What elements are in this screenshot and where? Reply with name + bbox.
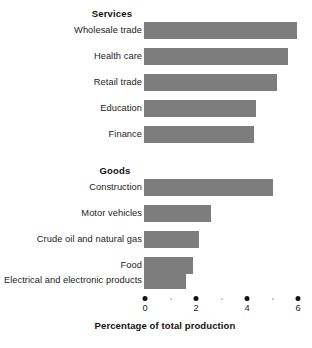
bar-label: Wholesale trade [74,22,142,39]
x-tick-dot-minor [170,298,172,300]
bar-row: Education [0,100,312,117]
bar-row: Health care [0,48,312,65]
bar-label: Construction [89,179,142,196]
bar-row: Motor vehicles [0,205,312,222]
x-tick-dot-minor [272,298,274,300]
bar-label: Finance [109,126,142,143]
x-axis-title: Percentage of total production [95,320,236,331]
x-tick-dot [245,296,250,301]
bar-row: Electrical and electronic products [0,272,312,289]
bar-row: Construction [0,179,312,196]
bar-label: Crude oil and natural gas [37,231,142,248]
x-tick-label: 6 [295,303,300,313]
bar-fill [144,272,186,289]
bar-label: Retail trade [94,74,142,91]
bar-track [144,179,273,196]
x-tick-dot [143,296,148,301]
bar-track [144,272,186,289]
bar-label: Motor vehicles [81,205,142,222]
bar-fill [144,231,199,248]
bar-fill [144,126,254,143]
group-header-goods: Goods [86,165,144,176]
x-tick-label: 4 [244,303,249,313]
x-tick-label: 0 [142,303,147,313]
bar-chart: Services Wholesale trade Health care Ret… [0,0,312,348]
bar-track [144,100,256,117]
bar-row: Retail trade [0,74,312,91]
bar-fill [144,74,277,91]
bar-fill [144,179,273,196]
bar-label: Health care [94,48,142,65]
bar-fill [144,48,288,65]
bar-row: Finance [0,126,312,143]
bar-label: Education [100,100,142,117]
bar-track [144,74,277,91]
x-tick-dot [296,296,301,301]
x-axis: 0 2 4 6 Percentage of total production [0,294,312,348]
bar-label: Electrical and electronic products [4,272,142,289]
bar-track [144,126,254,143]
bar-row: Crude oil and natural gas [0,231,312,248]
bar-track [144,48,288,65]
x-tick-label: 2 [193,303,198,313]
bar-row: Wholesale trade [0,22,312,39]
bar-fill [144,205,211,222]
x-tick-dot [194,296,199,301]
bar-fill [144,22,297,39]
group-header-services: Services [80,8,144,19]
x-tick-dot-minor [221,298,223,300]
bar-track [144,205,211,222]
bar-track [144,231,199,248]
x-axis-title-wrap: Percentage of total production [0,320,312,331]
bar-track [144,22,297,39]
bar-fill [144,100,256,117]
